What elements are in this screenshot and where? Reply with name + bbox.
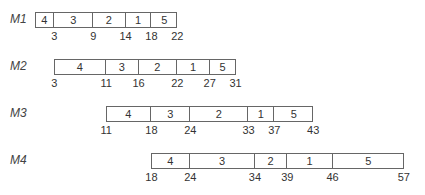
time-tick-label: 33 (242, 124, 254, 136)
time-tick-label: 3 (51, 30, 57, 42)
job-segment: 5 (151, 13, 177, 27)
job-segment: 1 (177, 60, 209, 74)
time-tick-label: 24 (184, 171, 196, 183)
machine-timeline-bar: 43215 (35, 12, 177, 28)
job-segment: 5 (274, 107, 313, 121)
job-segment: 3 (54, 13, 93, 27)
job-segment: 4 (54, 60, 106, 74)
job-segment: 1 (248, 107, 274, 121)
job-segment: 2 (139, 60, 178, 74)
time-tick-label: 34 (249, 171, 261, 183)
time-tick-label: 57 (398, 171, 410, 183)
time-tick-label: 18 (145, 124, 157, 136)
job-segment: 5 (333, 154, 404, 168)
time-tick-label: 46 (326, 171, 338, 183)
time-tick-label: 22 (171, 30, 183, 42)
machine-timeline-bar: 43215 (54, 59, 235, 75)
job-segment: 2 (190, 107, 248, 121)
time-tick-label: 24 (184, 124, 196, 136)
time-tick-label: 18 (145, 30, 157, 42)
time-tick-label: 11 (100, 77, 111, 89)
job-segment: 2 (255, 154, 287, 168)
job-segment: 4 (106, 107, 151, 121)
time-tick-label: 18 (145, 171, 157, 183)
time-tick-label: 37 (268, 124, 280, 136)
machine-label: M1 (10, 12, 27, 26)
job-segment: 3 (151, 107, 190, 121)
time-tick-label: 31 (229, 77, 241, 89)
job-segment: 1 (287, 154, 332, 168)
time-tick-label: 14 (119, 30, 131, 42)
time-tick-label: 39 (281, 171, 293, 183)
time-tick-label: 27 (204, 77, 216, 89)
job-segment: 2 (93, 13, 125, 27)
job-segment: 3 (106, 60, 138, 74)
job-segment: 5 (210, 60, 236, 74)
time-tick-label: 22 (171, 77, 183, 89)
machine-label: M3 (10, 106, 27, 120)
time-tick-label: 3 (51, 77, 57, 89)
machine-timeline-bar: 43215 (151, 153, 403, 169)
job-segment: 1 (126, 13, 152, 27)
machine-label: M2 (10, 59, 27, 73)
job-segment: 4 (151, 154, 190, 168)
job-segment: 4 (35, 13, 54, 27)
machine-timeline-bar: 43215 (106, 106, 313, 122)
time-tick-label: 16 (132, 77, 144, 89)
time-tick-label: 9 (90, 30, 96, 42)
job-segment: 3 (190, 154, 255, 168)
time-tick-label: 11 (100, 124, 111, 136)
time-tick-label: 43 (307, 124, 319, 136)
machine-label: M4 (10, 153, 27, 167)
